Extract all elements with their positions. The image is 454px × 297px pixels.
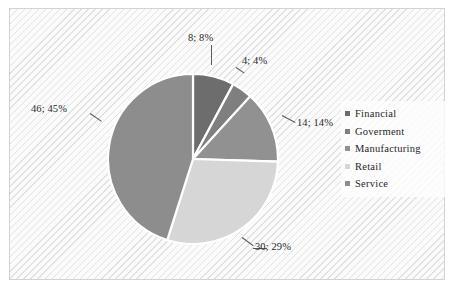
legend-item-manufacturing[interactable]: Manufacturing <box>345 140 442 158</box>
legend-item-service[interactable]: Service <box>345 175 442 193</box>
leader-line-manufacturing <box>282 115 296 123</box>
legend-swatch-icon <box>345 164 350 169</box>
legend-item-financial[interactable]: Financial <box>345 105 442 123</box>
chart-plot-area: 8; 8% 4; 4% 14; 14% 30; 29% 46; 45% Fina… <box>9 8 445 280</box>
data-label-financial: 8; 8% <box>188 32 213 43</box>
legend-label-financial: Financial <box>355 108 396 119</box>
legend-label-goverment: Goverment <box>355 126 405 137</box>
legend-swatch-icon <box>345 111 350 116</box>
legend-label-service: Service <box>355 178 388 189</box>
data-label-retail: 30; 29% <box>255 241 291 252</box>
legend-swatch-icon <box>345 129 350 134</box>
legend-swatch-icon <box>345 181 350 186</box>
chart-legend: Financial Goverment Manufacturing Retail… <box>341 101 445 197</box>
pie-svg <box>107 73 279 245</box>
data-label-manufacturing: 14; 14% <box>297 117 333 128</box>
data-label-service: 46; 45% <box>31 103 67 114</box>
pie-chart-graphic <box>107 73 279 245</box>
data-label-goverment: 4; 4% <box>242 55 267 66</box>
legend-label-retail: Retail <box>355 161 382 172</box>
pie-chart-screenshot: 8; 8% 4; 4% 14; 14% 30; 29% 46; 45% Fina… <box>0 0 454 297</box>
legend-item-goverment[interactable]: Goverment <box>345 123 442 141</box>
leader-line-financial <box>211 45 212 65</box>
legend-item-retail[interactable]: Retail <box>345 158 442 176</box>
pie-slices <box>108 74 278 244</box>
legend-label-manufacturing: Manufacturing <box>355 143 421 154</box>
legend-swatch-icon <box>345 146 350 151</box>
leader-line-service <box>90 113 102 122</box>
